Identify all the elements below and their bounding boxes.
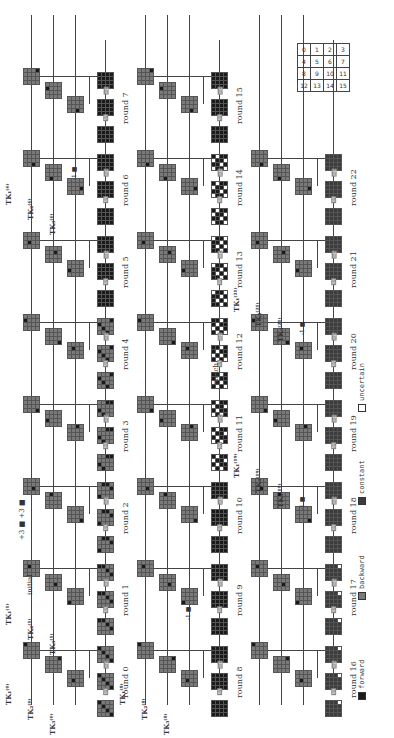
- grid-cell: [338, 327, 341, 330]
- grid-cell: [338, 182, 341, 185]
- grid-cell: [102, 264, 105, 267]
- grid-cell: [330, 190, 333, 193]
- grid-cell: [256, 655, 259, 658]
- grid-cell: [330, 655, 333, 658]
- grid-cell: [110, 127, 113, 130]
- tk3-grid: [67, 670, 84, 687]
- grid-cell: [256, 565, 259, 568]
- grid-cell: [212, 537, 215, 540]
- grid-cell: [282, 173, 285, 176]
- grid-cell: [110, 409, 113, 412]
- grid-cell: [308, 515, 311, 518]
- grid-cell: [326, 440, 329, 443]
- grid-cell: [106, 631, 109, 634]
- grid-cell: [326, 401, 329, 404]
- grid-cell: [216, 182, 219, 185]
- idx-cell: 11: [337, 68, 350, 80]
- grid-cell: [138, 77, 141, 80]
- sr-label: SR: [331, 196, 336, 203]
- tk-label: TK₂⁽⁰⁾: [26, 698, 35, 720]
- grid-cell: [194, 105, 197, 108]
- grid-cell: [102, 303, 105, 306]
- grid-cell: [190, 425, 193, 428]
- grid-cell: [160, 493, 163, 496]
- grid-cell: [326, 319, 329, 322]
- grid-cell: [326, 249, 329, 252]
- grid-cell: [274, 575, 277, 578]
- grid-cell: [220, 139, 223, 142]
- grid-cell: [28, 241, 31, 244]
- grid-cell: [216, 678, 219, 681]
- grid-cell: [28, 397, 31, 400]
- grid-cell: [106, 381, 109, 384]
- grid-cell: [106, 213, 109, 216]
- grid-cell: [282, 661, 285, 664]
- grid-cell: [106, 436, 109, 439]
- grid-cell: [110, 565, 113, 568]
- grid-cell: [106, 487, 109, 490]
- grid-cell: [98, 495, 101, 498]
- grid-cell: [326, 565, 329, 568]
- grid-cell: [224, 272, 227, 275]
- grid-cell: [216, 483, 219, 486]
- grid-cell: [32, 77, 35, 80]
- grid-cell: [334, 237, 337, 240]
- grid-cell: [190, 269, 193, 272]
- grid-cell: [102, 459, 105, 462]
- grid-cell: [334, 651, 337, 654]
- grid-cell: [300, 355, 303, 358]
- grid-cell: [304, 351, 307, 354]
- grid-cell: [24, 155, 27, 158]
- grid-cell: [330, 537, 333, 540]
- grid-cell: [98, 295, 101, 298]
- grid-cell: [50, 505, 53, 508]
- grid-cell: [212, 428, 215, 431]
- mc-label: MC: [104, 168, 109, 176]
- grid-cell: [106, 510, 109, 513]
- grid-cell: [338, 549, 341, 552]
- grid-cell: [164, 575, 167, 578]
- grid-cell: [32, 315, 35, 318]
- grid-cell: [110, 291, 113, 294]
- grid-cell: [32, 405, 35, 408]
- grid-cell: [326, 510, 329, 513]
- mc-label: MC: [218, 86, 223, 94]
- grid-cell: [58, 337, 61, 340]
- grid-cell: [286, 587, 289, 590]
- grid-cell: [300, 261, 303, 264]
- grid-cell: [106, 163, 109, 166]
- grid-cell: [106, 459, 109, 462]
- tweakey-connector: [317, 322, 318, 350]
- grid-cell: [308, 433, 311, 436]
- grid-cell: [220, 436, 223, 439]
- grid-cell: [146, 323, 149, 326]
- grid-cell: [264, 491, 267, 494]
- grid-cell: [190, 601, 193, 604]
- grid-cell: [68, 183, 71, 186]
- grid-cell: [212, 483, 215, 486]
- grid-cell: [110, 350, 113, 353]
- grid-cell: [164, 259, 167, 262]
- grid-cell: [252, 565, 255, 568]
- tweakey-connector: [154, 158, 219, 159]
- grid-cell: [182, 187, 185, 190]
- grid-cell: [24, 241, 27, 244]
- tweakey-connector: [154, 486, 219, 487]
- grid-cell: [110, 569, 113, 572]
- grid-cell: [46, 415, 49, 418]
- grid-cell: [334, 377, 337, 380]
- state-x-grid: [211, 208, 228, 225]
- grid-cell: [102, 405, 105, 408]
- grid-cell: [216, 705, 219, 708]
- grid-cell: [220, 674, 223, 677]
- grid-cell: [326, 623, 329, 626]
- grid-cell: [216, 573, 219, 576]
- round-label: round 8: [235, 666, 244, 698]
- grid-cell: [194, 191, 197, 194]
- grid-cell: [102, 135, 105, 138]
- grid-cell: [58, 415, 61, 418]
- tweakey-connector: [40, 158, 105, 159]
- grid-cell: [330, 701, 333, 704]
- grid-cell: [172, 329, 175, 332]
- grid-cell: [212, 545, 215, 548]
